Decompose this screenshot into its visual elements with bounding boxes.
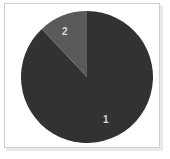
pie-slice-label-1: 1: [103, 115, 109, 125]
pie-chart-svg: [0, 0, 170, 159]
pie-slice-label-2: 2: [62, 27, 68, 37]
pie-chart: 2 1: [0, 0, 170, 159]
pie-slice-1[interactable]: [21, 11, 153, 143]
